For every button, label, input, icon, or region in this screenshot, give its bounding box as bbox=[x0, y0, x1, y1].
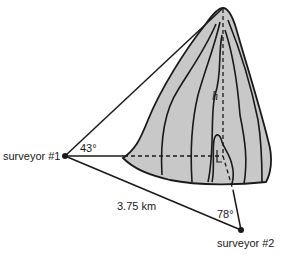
surveyor-1-point bbox=[62, 153, 68, 159]
distance-label: 3.75 km bbox=[117, 200, 156, 212]
surveyor-2-label: surveyor #2 bbox=[217, 237, 274, 249]
mountain-survey-diagram: surveyor #1 surveyor #2 43° 78° 3.75 km … bbox=[0, 0, 286, 255]
height-label: h bbox=[212, 89, 218, 103]
angle-2-label: 78° bbox=[217, 208, 234, 220]
angle-1-label: 43° bbox=[80, 142, 97, 154]
sight-line-s2-base bbox=[233, 190, 241, 230]
surveyor-1-label: surveyor #1 bbox=[3, 150, 60, 162]
surveyor-2-point bbox=[238, 227, 244, 233]
